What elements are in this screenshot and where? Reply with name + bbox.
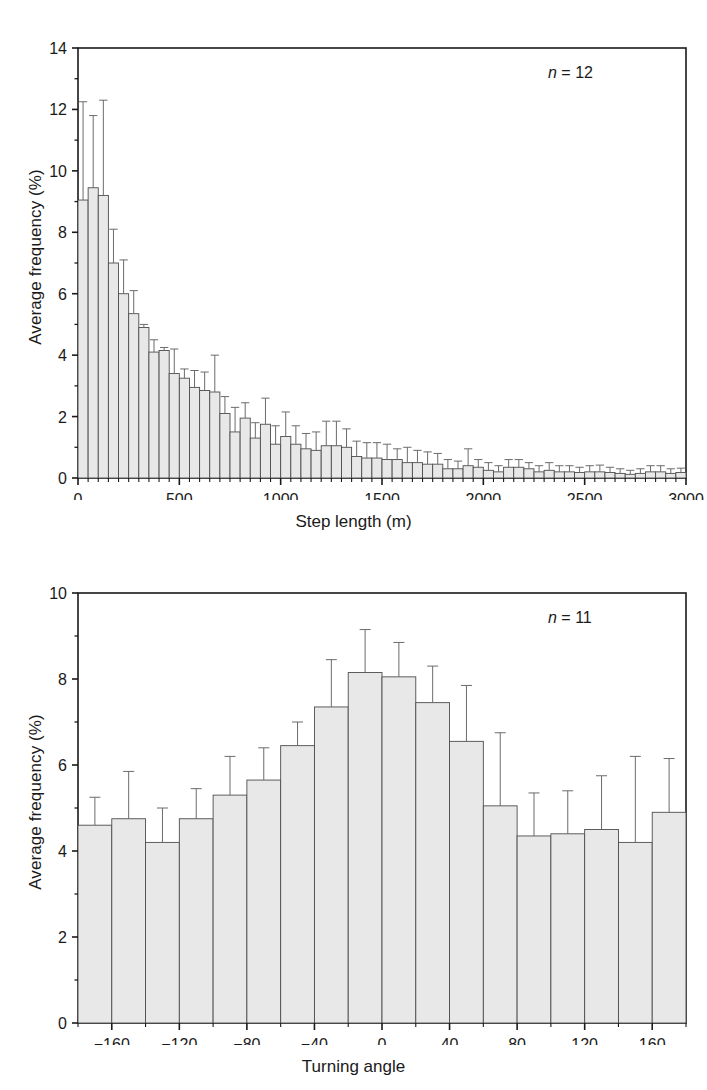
histogram-bar: [230, 432, 240, 478]
panel-step-length: Average frequency (%) 024681012140500100…: [0, 0, 707, 545]
n-equals-top: =: [557, 64, 575, 81]
histogram-bar: [453, 469, 463, 478]
histogram-bar: [372, 458, 382, 478]
y-tick-label: 2: [58, 409, 67, 426]
x-axis-label-bottom: Turning angle: [0, 1057, 707, 1077]
x-tick-label: −160: [94, 1036, 130, 1045]
histogram-bar: [348, 673, 382, 1023]
histogram-bar: [514, 467, 524, 478]
histogram-bar: [98, 195, 108, 478]
y-tick-label: 6: [58, 757, 67, 774]
histogram-bar: [139, 328, 149, 479]
n-symbol-bottom: n: [548, 609, 557, 626]
y-tick-label: 4: [58, 843, 67, 860]
histogram-bar: [341, 447, 351, 478]
n-symbol-top: n: [548, 64, 557, 81]
histogram-bar: [213, 795, 247, 1023]
histogram-bar: [615, 473, 625, 478]
x-tick-label: 2000: [466, 491, 502, 500]
y-tick-label: 0: [58, 1015, 67, 1032]
y-tick-label: 2: [58, 929, 67, 946]
histogram-bar: [645, 472, 655, 478]
histogram-bar: [78, 200, 88, 478]
y-tick-label: 10: [49, 163, 67, 180]
histogram-bar: [416, 703, 450, 1023]
histogram-bar: [314, 707, 348, 1023]
turning-angle-chart: 0246810−160−120−80−4004080120160: [0, 545, 707, 1045]
x-tick-label: 2500: [567, 491, 603, 500]
histogram-bar: [352, 457, 362, 479]
histogram-bar: [423, 464, 433, 478]
x-tick-label: 0: [74, 491, 83, 500]
histogram-bar: [402, 463, 412, 478]
histogram-bar: [618, 842, 652, 1023]
y-tick-label: 0: [58, 470, 67, 487]
histogram-bar: [240, 418, 250, 478]
x-tick-label: 40: [441, 1036, 459, 1045]
histogram-bar: [585, 472, 595, 478]
histogram-bar: [129, 314, 139, 478]
y-tick-label: 6: [58, 286, 67, 303]
x-tick-label: 0: [378, 1036, 387, 1045]
histogram-bar: [473, 467, 483, 478]
y-tick-label: 14: [49, 40, 67, 57]
histogram-bar: [504, 467, 514, 478]
histogram-bar: [311, 450, 321, 478]
x-axis-label-top: Step length (m): [0, 512, 707, 532]
histogram-bar: [247, 780, 281, 1023]
histogram-bar: [412, 463, 422, 478]
figure-two-histograms: Average frequency (%) 024681012140500100…: [0, 0, 707, 1090]
histogram-bar: [656, 472, 666, 478]
histogram-bar: [112, 819, 146, 1023]
histogram-bar: [493, 472, 503, 478]
sample-size-annotation-top: n = 12: [548, 64, 593, 82]
x-tick-label: 500: [166, 491, 193, 500]
x-tick-label: 1000: [263, 491, 299, 500]
histogram-bar: [524, 469, 534, 478]
n-value-bottom: 11: [575, 609, 592, 626]
histogram-bar: [291, 444, 301, 478]
x-tick-label: −80: [233, 1036, 260, 1045]
histogram-bar: [210, 392, 220, 478]
histogram-bar: [179, 378, 189, 478]
histogram-bar: [585, 830, 619, 1024]
x-tick-label: 120: [571, 1036, 598, 1045]
n-equals-bottom: =: [557, 609, 575, 626]
sample-size-annotation-bottom: n = 11: [548, 609, 592, 627]
y-tick-label: 8: [58, 671, 67, 688]
histogram-bar: [605, 472, 615, 478]
histogram-bar: [331, 446, 341, 478]
y-axis-label-bottom: Average frequency (%): [26, 587, 46, 1017]
histogram-bar: [450, 741, 484, 1023]
histogram-bar: [149, 352, 159, 478]
x-tick-label: 3000: [668, 491, 704, 500]
histogram-bar: [78, 825, 112, 1023]
x-tick-label: 1500: [364, 491, 400, 500]
x-tick-label: 160: [639, 1036, 666, 1045]
histogram-bar: [146, 842, 180, 1023]
y-tick-label: 10: [49, 585, 67, 602]
bars-group: [78, 630, 686, 1023]
histogram-bar: [595, 472, 605, 478]
histogram-bar: [676, 472, 686, 478]
histogram-bar: [119, 294, 129, 478]
histogram-bar: [250, 438, 260, 478]
histogram-bar: [392, 460, 402, 478]
histogram-bar: [88, 188, 98, 478]
histogram-bar: [281, 437, 291, 478]
histogram-bar: [189, 387, 199, 478]
histogram-bar: [281, 746, 315, 1023]
histogram-bar: [544, 470, 554, 478]
x-tick-label: 80: [508, 1036, 526, 1045]
histogram-bar: [652, 812, 686, 1023]
histogram-bar: [666, 473, 676, 478]
x-tick-label: −40: [301, 1036, 328, 1045]
histogram-bar: [635, 473, 645, 478]
histogram-bar: [517, 836, 551, 1023]
histogram-bar: [483, 806, 517, 1023]
histogram-bar: [301, 449, 311, 478]
histogram-bar: [179, 819, 213, 1023]
histogram-bar: [321, 446, 331, 478]
histogram-bar: [260, 424, 270, 478]
step-length-chart: 02468101214050010001500200025003000: [0, 0, 707, 500]
